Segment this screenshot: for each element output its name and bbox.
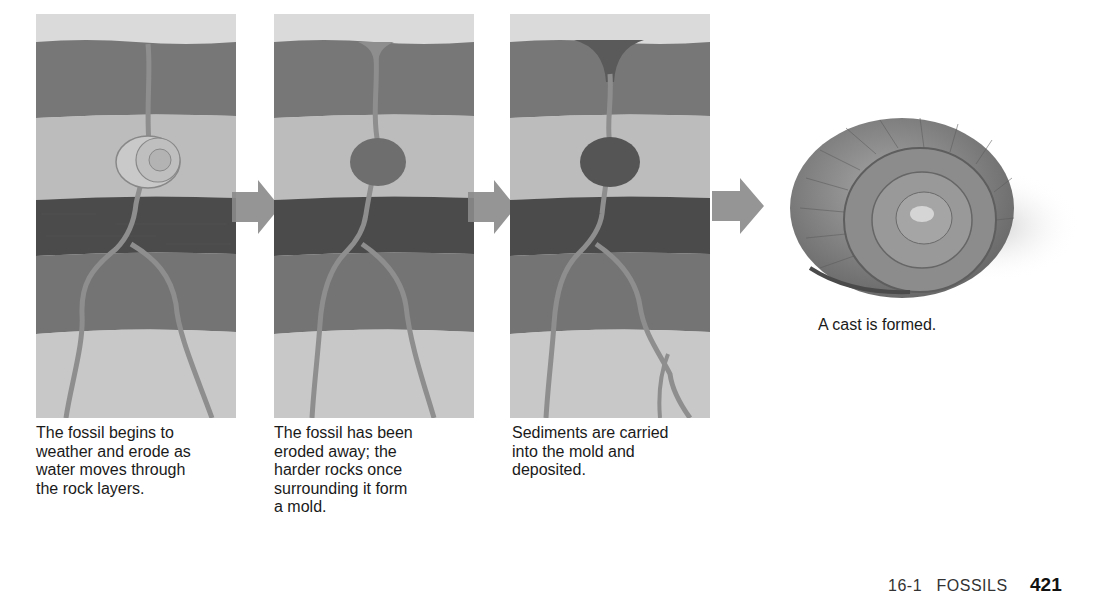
filled-mold [580,137,640,187]
caption-line: a mold. [274,498,484,517]
stage-3-caption: Sediments are carried into the mold and … [512,424,722,480]
stage-2-caption: The fossil has been eroded away; the har… [274,424,484,517]
caption-line: weather and erode as [36,443,246,462]
right-arrow-icon [468,180,516,234]
ammonite-cast-photo [780,108,1090,308]
section-title: FOSSILS [936,577,1007,594]
cast-caption: A cast is formed. [818,316,936,334]
caption-line: harder rocks once [274,461,484,480]
caption-line: water moves through [36,461,246,480]
section-number: 16-1 [888,577,922,594]
caption-line: The fossil has been [274,424,484,443]
stage-1-caption: The fossil begins to weather and erode a… [36,424,246,498]
page-number: 421 [1030,574,1062,595]
caption-line: eroded away; the [274,443,484,462]
mold-cavity [350,138,406,186]
right-arrow-icon [232,180,280,234]
page-footer: 16-1 FOSSILS 421 [888,574,1062,596]
caption-line: The fossil begins to [36,424,246,443]
stage-3-rock-diagram [510,14,710,418]
ammonite-icon [116,136,180,188]
right-arrow-icon [712,178,764,234]
stage-1-rock-diagram [36,14,236,418]
caption-line: into the mold and [512,443,722,462]
caption-line: Sediments are carried [512,424,722,443]
caption-line: deposited. [512,461,722,480]
caption-line: surrounding it form [274,480,484,499]
caption-line: the rock layers. [36,480,246,499]
stage-2-rock-diagram [274,14,474,418]
